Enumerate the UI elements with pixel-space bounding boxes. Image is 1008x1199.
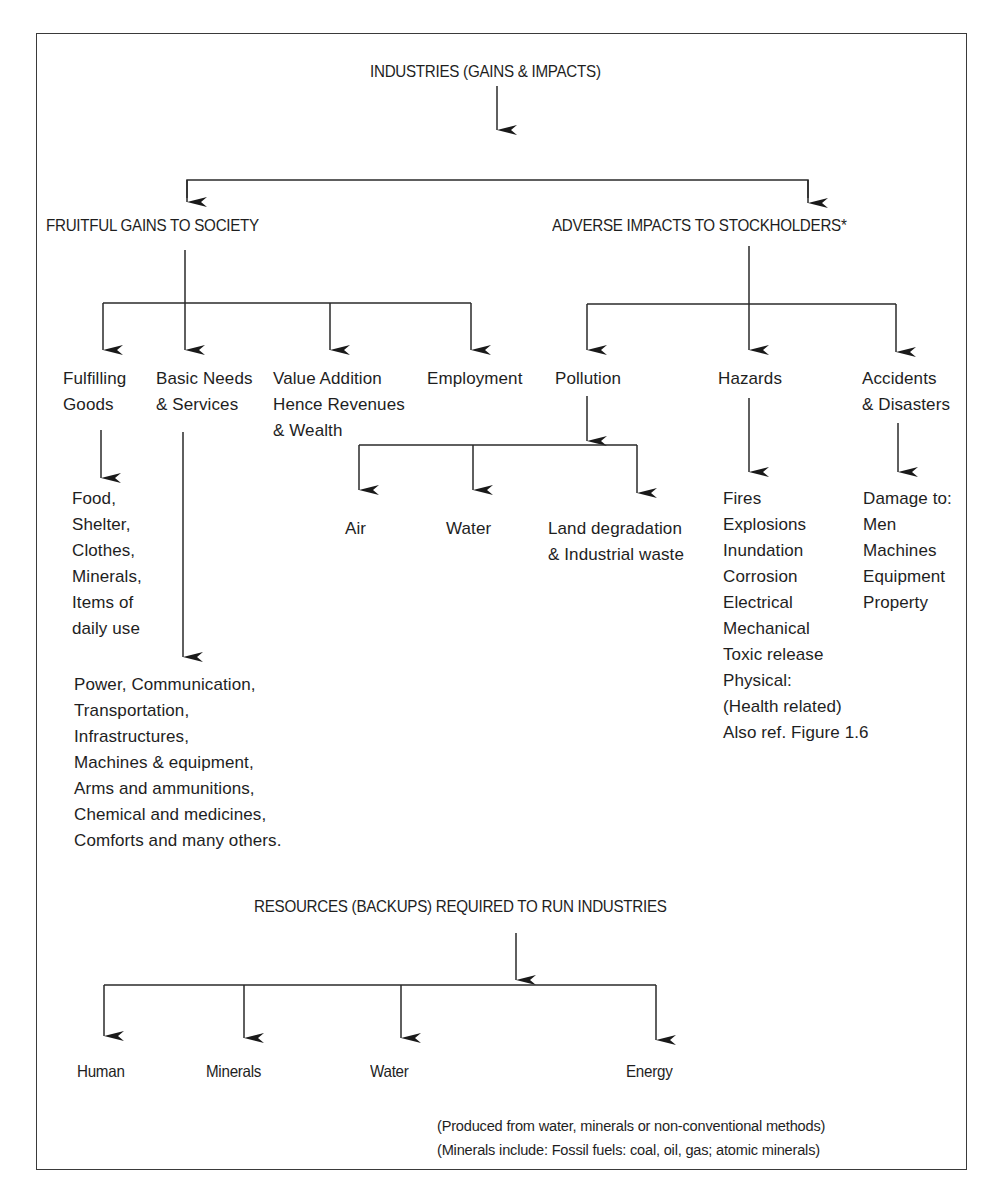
resource-minerals: Minerals: [206, 1058, 261, 1084]
gains-node: FRUITFUL GAINS TO SOCIETY: [46, 212, 259, 238]
pollution-air: Air: [345, 516, 366, 542]
node-fulfilling-goods: Fulfilling Goods: [63, 366, 126, 418]
pollution-water: Water: [446, 516, 491, 542]
impacts-node: ADVERSE IMPACTS TO STOCKHOLDERS*: [552, 212, 847, 238]
node-accidents-disasters: Accidents & Disasters: [862, 366, 950, 418]
resource-water: Water: [370, 1058, 409, 1084]
energy-note-2: (Minerals include: Fossil fuels: coal, o…: [437, 1138, 820, 1162]
pollution-land: Land degradation & Industrial waste: [548, 516, 684, 568]
node-value-addition: Value Addition Hence Revenues & Wealth: [273, 366, 405, 444]
resource-human: Human: [77, 1058, 125, 1084]
node-employment: Employment: [427, 366, 522, 392]
accidents-details: Damage to: Men Machines Equipment Proper…: [863, 486, 952, 616]
node-pollution: Pollution: [555, 366, 621, 392]
basic-needs-details: Power, Communication, Transportation, In…: [74, 672, 282, 854]
root-node-title: INDUSTRIES (GAINS & IMPACTS): [370, 58, 601, 84]
hazards-details: Fires Explosions Inundation Corrosion El…: [723, 486, 869, 746]
fulfilling-goods-details: Food, Shelter, Clothes, Minerals, Items …: [72, 486, 142, 642]
node-basic-needs: Basic Needs & Services: [156, 366, 253, 418]
resource-energy: Energy: [626, 1058, 672, 1084]
resources-node: RESOURCES (BACKUPS) REQUIRED TO RUN INDU…: [254, 893, 667, 919]
node-hazards: Hazards: [718, 366, 782, 392]
energy-note-1: (Produced from water, minerals or non-co…: [437, 1114, 825, 1138]
